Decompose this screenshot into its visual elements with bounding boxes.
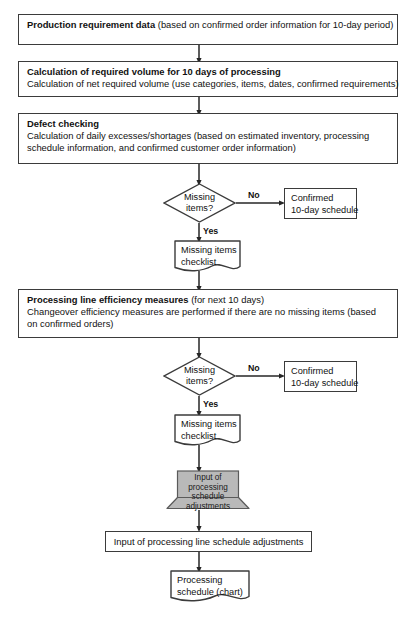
document-line-1: Processing: [177, 575, 250, 587]
node-detail: (for next 10 days): [189, 294, 265, 305]
node-input-processing-line-schedule-adjustments: Input of processing line schedule adjust…: [105, 531, 312, 552]
edge-label-yes-1: Yes: [203, 226, 218, 236]
node-detail: (based on confirmed order information fo…: [155, 19, 393, 30]
node-missing-items-checklist-2: Missing items checklist: [174, 414, 241, 446]
node-line-2: Changeover efficiency measures are perfo…: [27, 306, 390, 318]
manual-input-line-2: processing: [166, 483, 250, 493]
document-line-2: schedule (chart): [177, 587, 250, 599]
node-input-processing-schedule-adjustments: Input of processing schedule adjustments: [166, 470, 250, 510]
node-line-2: 10-day schedule: [291, 205, 356, 217]
node-title: Defect checking: [27, 118, 390, 130]
manual-input-line-1: Input of: [166, 473, 250, 483]
manual-input-line-4: adjustments: [166, 502, 250, 512]
node-title: Production requirement data: [27, 19, 155, 30]
document-line-2: checklist: [181, 257, 241, 269]
node-processing-schedule-chart: Processing schedule (chart): [170, 570, 250, 602]
document-label: Missing items checklist: [174, 414, 241, 443]
node-confirmed-10-day-schedule-2: Confirmed 10-day schedule: [284, 361, 357, 392]
node-title: Calculation of required volume for 10 da…: [27, 66, 390, 78]
node-production-requirement-data: Production requirement data (based on co…: [18, 14, 398, 45]
node-processing-line-efficiency-measures: Processing line efficiency measures (for…: [18, 289, 398, 338]
node-line-2: 10-day schedule: [291, 378, 356, 390]
node-line-3: schedule information, and confirmed cust…: [27, 142, 390, 154]
document-line-2: checklist: [181, 431, 241, 443]
node-confirmed-10-day-schedule-1: Confirmed 10-day schedule: [284, 188, 357, 219]
node-title: Processing line efficiency measures: [27, 294, 189, 305]
document-label: Processing schedule (chart): [170, 570, 250, 599]
decision-line-1: Missing: [184, 365, 215, 376]
manual-input-label: Input of processing schedule adjustments: [166, 470, 250, 511]
node-calculation-required-volume: Calculation of required volume for 10 da…: [18, 61, 398, 97]
node-line-1: Confirmed: [291, 366, 356, 378]
manual-input-line-3: schedule: [166, 492, 250, 502]
document-line-1: Missing items: [181, 245, 241, 257]
decision-label: Missing items?: [163, 183, 236, 223]
node-line-2: Calculation of net required volume (use …: [27, 78, 390, 90]
flowchart-canvas: Production requirement data (based on co…: [0, 0, 416, 618]
document-label: Missing items checklist: [174, 240, 241, 269]
document-line-1: Missing items: [181, 419, 241, 431]
node-line-2: Calculation of daily excesses/shortages …: [27, 130, 390, 142]
decision-line-1: Missing: [184, 192, 215, 203]
edge-label-no-1: No: [248, 190, 260, 200]
decision-line-2: items?: [186, 376, 213, 387]
node-missing-items-checklist-1: Missing items checklist: [174, 240, 241, 272]
node-defect-checking: Defect checking Calculation of daily exc…: [18, 113, 398, 164]
node-decision-missing-items-2: Missing items?: [163, 356, 236, 396]
node-line-1: Confirmed: [291, 193, 356, 205]
node-decision-missing-items-1: Missing items?: [163, 183, 236, 223]
decision-label: Missing items?: [163, 356, 236, 396]
node-line-3: on confirmed orders): [27, 318, 390, 330]
edge-label-no-2: No: [248, 363, 260, 373]
edge-label-yes-2: Yes: [203, 399, 218, 409]
decision-line-2: items?: [186, 203, 213, 214]
